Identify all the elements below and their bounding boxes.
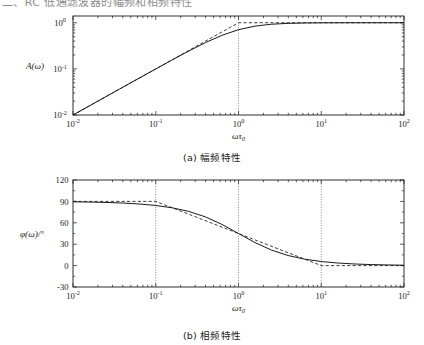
tick-label: 10-2 <box>53 109 67 120</box>
tick-label: 102 <box>398 117 410 128</box>
series-group <box>73 201 404 265</box>
y-tick-labels: 10-210-1100 <box>53 16 67 120</box>
magnitude-caption: (a) 幅频特性 <box>0 150 424 164</box>
clipped-header-label: 二、RC 低通滤波器的幅频和相频特性 <box>0 0 424 9</box>
tick-label: 101 <box>315 289 327 300</box>
x-tick-labels: 10-210-1100101102 <box>66 117 410 128</box>
tick-label: 120 <box>56 175 69 185</box>
tick-label: 100 <box>233 117 245 128</box>
x-axis-label: ωτ0 <box>232 131 246 142</box>
tick-label: -30 <box>57 282 68 292</box>
tick-label: 10-1 <box>149 117 163 128</box>
tick-label: 10-2 <box>66 117 80 128</box>
y-tick-labels: -300306090120 <box>56 175 69 292</box>
tick-label: 60 <box>60 218 69 228</box>
tick-label: 100 <box>233 289 245 300</box>
y-axis-label: φ(ω)/° <box>20 229 44 239</box>
phase-plot: 10-210-1100101102-300306090120φ(ω)/°ωτ0 <box>0 166 424 344</box>
x-axis-label: ωτ0 <box>232 303 246 314</box>
tick-label: 101 <box>315 117 327 128</box>
tick-label: 0 <box>64 261 68 271</box>
phase-figure: 10-210-1100101102-300306090120φ(ω)/°ωτ0 <box>0 166 424 344</box>
tick-label: 10-1 <box>53 63 67 74</box>
phase-caption: (b) 相频特性 <box>0 328 424 342</box>
magnitude-figure: 10-210-110010110210-210-1100A(ω)ωτ0 <box>0 10 424 160</box>
tick-label: 10-1 <box>149 289 163 300</box>
magnitude-plot: 10-210-110010110210-210-1100A(ω)ωτ0 <box>0 10 424 160</box>
curve-exact <box>73 202 404 265</box>
tick-label: 30 <box>60 239 69 249</box>
tick-label: 90 <box>60 197 69 207</box>
figure-page: 二、RC 低通滤波器的幅频和相频特性 10-210-110010110210-2… <box>0 0 424 345</box>
tick-label: 100 <box>54 16 66 27</box>
y-axis-label: A(ω) <box>25 61 44 71</box>
x-tick-labels: 10-210-1100101102 <box>66 289 410 300</box>
tick-label: 102 <box>398 289 410 300</box>
clipped-header-text: 二、RC 低通滤波器的幅频和相频特性 <box>0 0 424 9</box>
